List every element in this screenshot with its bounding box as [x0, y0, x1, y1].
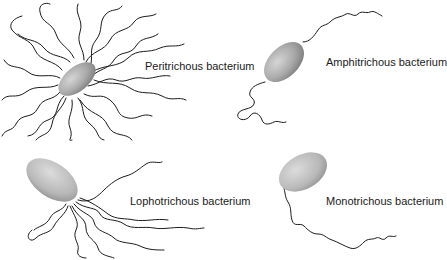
amphitrichous-flagellum-top: [303, 11, 382, 42]
amphitrichous-cell: [256, 34, 311, 89]
amphitrichous-flagellum-bottom: [238, 82, 286, 124]
lophotrichous-cell: [18, 149, 85, 210]
monotrichous-cell: [272, 144, 334, 199]
label-amphitrichous: Amphitrichous bacterium: [326, 56, 447, 68]
label-peritrichous: Peritrichous bacterium: [145, 60, 254, 72]
label-monotrichous: Monotrichous bacterium: [326, 195, 443, 207]
monotrichous-flagellum: [282, 184, 396, 249]
peritrichous-cell: [52, 56, 101, 103]
label-lophotrichous: Lophotrichous bacterium: [130, 195, 250, 207]
flagella-diagram: [0, 0, 447, 260]
